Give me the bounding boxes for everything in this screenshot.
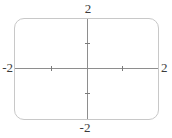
x-axis-tick-minus-1 <box>51 66 52 71</box>
y-axis-tick-minus-1 <box>85 93 90 94</box>
y-axis-tick-plus-1 <box>85 43 90 44</box>
x-max-label: 2 <box>161 61 172 75</box>
y-max-label: 2 <box>82 2 94 16</box>
x-axis-tick-plus-1 <box>122 66 123 71</box>
x-min-label: -2 <box>0 61 13 75</box>
plot-figure: 2 -2 -2 2 <box>0 0 172 138</box>
y-axis <box>87 19 88 119</box>
y-min-label: -2 <box>76 121 94 135</box>
